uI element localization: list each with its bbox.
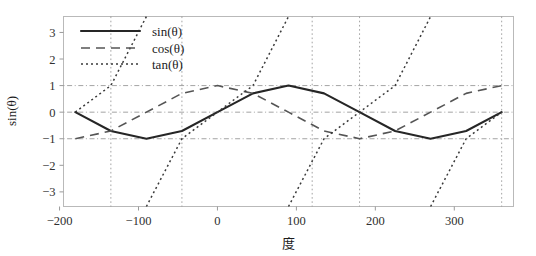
line-chart: −200−1000100200300 3210−1−2−3 度 sin(θ) s… [0,0,536,256]
y-tick-marks [60,32,64,191]
y-tick-label: −3 [42,185,55,199]
figure-canvas: −200−1000100200300 3210−1−2−3 度 sin(θ) s… [0,0,536,256]
legend-label-cos: cos(θ) [152,41,184,56]
series-line-tan [431,112,502,206]
y-tick-label: 2 [49,53,55,67]
y-tick-label: 1 [49,79,55,93]
y-axis-title: sin(θ) [4,96,19,126]
legend-label-tan: tan(θ) [152,57,183,72]
x-tick-labels: −200−1000100200300 [47,214,464,228]
legend-label-sin: sin(θ) [152,24,182,39]
y-tick-labels: 3210−1−2−3 [42,26,55,199]
x-tick-label: 200 [366,214,385,228]
y-tick-label: 0 [49,106,55,120]
y-tick-label: −1 [42,132,55,146]
y-tick-label: 3 [49,26,55,40]
legend: sin(θ) cos(θ) tan(θ) [74,22,198,74]
y-tick-label: −2 [42,159,55,173]
x-tick-label: 0 [214,214,220,228]
x-tick-label: −200 [47,214,73,228]
x-tick-label: 100 [287,214,306,228]
x-axis-title: 度 [282,236,295,251]
x-tick-label: 300 [445,214,464,228]
series-line-tan [289,17,431,207]
x-tick-label: −100 [126,214,152,228]
x-tick-marks [60,207,455,211]
